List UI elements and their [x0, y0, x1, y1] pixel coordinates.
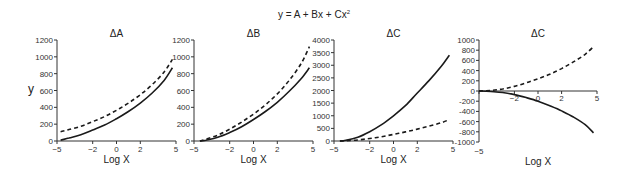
- x-tick-label: 5: [595, 94, 600, 103]
- y-tick-label: -800: [459, 128, 476, 137]
- y-tick-label: -200: [459, 97, 476, 106]
- x-tick-label: 5: [311, 145, 316, 154]
- dashed-series-line: [479, 47, 594, 91]
- dashed-series-line: [200, 47, 310, 141]
- panel-title: ΔB: [247, 28, 261, 39]
- x-tick-label: 2: [275, 145, 280, 154]
- x-axis-label: Log X: [103, 154, 129, 165]
- y-tick-label: 600: [40, 87, 54, 96]
- y-tick-label: 200: [177, 120, 191, 129]
- y-tick-label: 400: [40, 103, 54, 112]
- y-tick-label: -400: [459, 107, 476, 116]
- x-tick-label: −2: [225, 145, 235, 154]
- y-tick-label: 1000: [312, 112, 330, 121]
- panel-title: ΔC: [531, 28, 545, 39]
- x-tick-label: 2: [559, 94, 564, 103]
- y-tick-label: 600: [177, 87, 191, 96]
- x-tick-label: −5: [189, 145, 199, 154]
- y-tick-label: 0: [471, 87, 476, 96]
- x-axis-label: Log X: [380, 154, 406, 165]
- x-tick-label: −2: [365, 145, 375, 154]
- solid-series-line: [340, 55, 450, 141]
- y-tick-label: 1000: [35, 53, 53, 62]
- y-tick-label: 1200: [172, 36, 190, 45]
- y-tick-label: 1500: [312, 99, 330, 108]
- solid-series-line: [200, 68, 310, 141]
- x-tick-label: −2: [88, 145, 98, 154]
- x-tick-label: −5: [52, 145, 62, 154]
- y-tick-label: 4000: [312, 36, 330, 45]
- y-tick-label: 3500: [312, 49, 330, 58]
- y-tick-label: 1200: [35, 36, 53, 45]
- y-tick-label: 200: [462, 77, 476, 86]
- panel-title: ΔA: [110, 28, 124, 39]
- y-axis-label: y: [28, 82, 34, 96]
- y-tick-label: -600: [459, 118, 476, 127]
- dashed-series-line: [61, 59, 173, 131]
- panel-title: ΔC: [387, 28, 401, 39]
- x-tick-label: 5: [174, 145, 179, 154]
- y-tick-label: 800: [462, 46, 476, 55]
- y-tick-label: 1000: [457, 36, 475, 45]
- x-axis-label: Log X: [240, 154, 266, 165]
- chart-area: 020040060080010001200−5−2025ΔALog Xy0200…: [0, 0, 628, 178]
- y-tick-label: 500: [317, 124, 331, 133]
- x-tick-label: −5: [474, 147, 484, 156]
- x-tick-label: 0: [251, 145, 256, 154]
- y-tick-label: 200: [40, 120, 54, 129]
- y-tick-label: -1000: [455, 138, 476, 147]
- y-tick-label: 3000: [312, 61, 330, 70]
- x-tick-label: 0: [391, 145, 396, 154]
- x-axis-label: Log X: [525, 156, 551, 167]
- x-tick-label: 2: [138, 145, 143, 154]
- x-tick-label: −5: [329, 145, 339, 154]
- y-tick-label: 1000: [172, 53, 190, 62]
- y-tick-label: 2000: [312, 87, 330, 96]
- y-tick-label: 2500: [312, 74, 330, 83]
- y-tick-label: 400: [177, 103, 191, 112]
- solid-series-line: [61, 68, 173, 140]
- y-tick-label: 800: [177, 70, 191, 79]
- y-tick-label: 800: [40, 70, 54, 79]
- x-tick-label: 0: [114, 145, 119, 154]
- y-tick-label: 600: [462, 56, 476, 65]
- y-tick-label: 400: [462, 67, 476, 76]
- x-tick-label: 2: [415, 145, 420, 154]
